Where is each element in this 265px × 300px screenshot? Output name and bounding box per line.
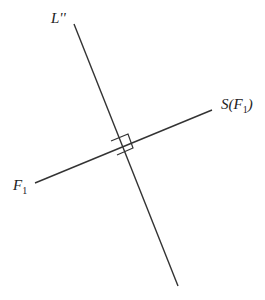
label-f1: F1 [12,177,27,196]
perpendicular-lines-diagram: L'' S(F1) F1 [0,0,265,300]
label-s-f1: S(F1) [221,96,253,115]
label-l-double-prime: L'' [50,10,67,26]
line-f1-to-s-f1 [35,110,212,183]
line-l-double-prime [74,24,178,286]
